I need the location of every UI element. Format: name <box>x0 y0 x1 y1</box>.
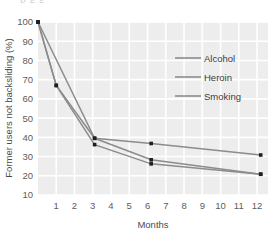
x-axis-tick-labels: 123456789101112 <box>54 200 263 211</box>
x-axis-title: Months <box>137 219 168 230</box>
x-tick-label: 2 <box>72 200 77 211</box>
x-tick-label: 9 <box>200 200 205 211</box>
x-tick-label: 5 <box>127 200 132 211</box>
y-tick-label: 70 <box>22 74 33 85</box>
y-axis-title: Former users not backsliding (%) <box>3 38 14 177</box>
figure-container: p g g 102030405060708090100 123456789101… <box>0 0 273 235</box>
x-tick-label: 1 <box>54 200 59 211</box>
data-point-marker <box>149 162 153 166</box>
data-point-marker <box>36 20 40 24</box>
y-tick-label: 60 <box>22 93 33 104</box>
y-tick-label: 50 <box>22 113 33 124</box>
x-tick-label: 4 <box>108 200 113 211</box>
x-tick-label: 8 <box>181 200 186 211</box>
y-tick-label: 20 <box>22 170 33 181</box>
data-point-marker <box>93 136 97 140</box>
y-tick-label: 90 <box>22 36 33 47</box>
data-point-marker <box>259 153 263 157</box>
legend-label: Alcohol <box>204 53 235 64</box>
y-tick-label: 100 <box>17 16 33 27</box>
data-point-marker <box>259 172 263 176</box>
data-point-marker <box>149 142 153 146</box>
legend-label: Heroin <box>204 72 232 83</box>
line-chart: 102030405060708090100 123456789101112 Fo… <box>0 0 273 235</box>
y-tick-label: 80 <box>22 55 33 66</box>
x-tick-label: 10 <box>215 200 226 211</box>
y-axis-tick-labels: 102030405060708090100 <box>17 16 33 200</box>
x-tick-label: 11 <box>234 200 244 211</box>
y-tick-label: 40 <box>22 132 33 143</box>
y-tick-label: 30 <box>22 151 33 162</box>
x-tick-label: 7 <box>163 200 168 211</box>
data-point-marker <box>54 84 58 88</box>
data-point-marker <box>93 143 97 147</box>
x-tick-label: 6 <box>145 200 150 211</box>
data-point-marker <box>149 158 153 162</box>
x-tick-label: 3 <box>90 200 95 211</box>
legend-label: Smoking <box>204 91 241 102</box>
y-tick-label: 10 <box>22 189 33 200</box>
x-tick-label: 12 <box>252 200 263 211</box>
